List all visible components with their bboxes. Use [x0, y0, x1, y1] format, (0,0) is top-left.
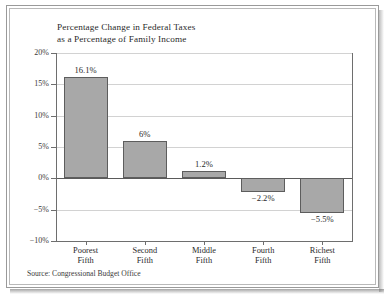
chart-title-line-2: as a Percentage of Family Income — [57, 34, 307, 46]
bar — [123, 141, 167, 179]
figure-shadow-right — [379, 10, 384, 292]
chart-figure: Percentage Change in Federal Taxes as a … — [0, 0, 388, 301]
x-axis-label-line: Fifth — [282, 256, 362, 266]
bar-value-label: 1.2% — [164, 159, 244, 169]
gridline — [56, 53, 352, 54]
bar-value-label: 16.1% — [46, 65, 126, 75]
bar — [182, 171, 226, 179]
bar — [241, 178, 285, 192]
bar-value-label: 6% — [105, 129, 185, 139]
bar-value-label: −5.5% — [282, 214, 362, 224]
y-axis-tick-label: 5% — [5, 142, 49, 151]
x-axis-label-line: Richest — [282, 246, 362, 256]
x-axis-tick — [145, 241, 146, 245]
bar — [300, 178, 344, 212]
x-axis-tick — [86, 241, 87, 245]
source-note: Source: Congressional Budget Office — [27, 269, 141, 278]
y-axis-labels: 20%15%10%5%0%−5%−10% — [3, 0, 49, 301]
x-axis-category-label: RichestFifth — [282, 246, 362, 267]
bar-value-label: −2.2% — [223, 193, 303, 203]
plot-right-border — [352, 53, 353, 242]
y-axis-tick-label: 0% — [5, 173, 49, 182]
x-axis-tick — [263, 241, 264, 245]
bar — [64, 77, 108, 178]
y-axis-line — [56, 53, 57, 242]
x-axis-tick — [322, 241, 323, 245]
y-axis-tick-label: −10% — [5, 236, 49, 245]
y-axis-tick-label: 20% — [5, 48, 49, 57]
y-axis-tick-label: 15% — [5, 79, 49, 88]
chart-title-line-1: Percentage Change in Federal Taxes — [57, 22, 307, 34]
plot-area: 16.1%6%1.2%−2.2%−5.5% — [56, 53, 352, 241]
y-axis-tick-label: 10% — [5, 111, 49, 120]
chart-title: Percentage Change in Federal Taxes as a … — [57, 22, 307, 45]
y-axis-tick-label: −5% — [5, 205, 49, 214]
figure-shadow-bottom — [10, 289, 384, 294]
x-axis-tick — [204, 241, 205, 245]
